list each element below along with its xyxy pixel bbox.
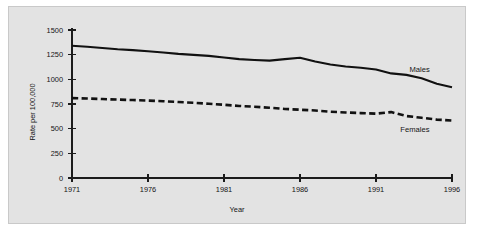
x-axis-title: Year — [230, 205, 245, 214]
y-tick-label: 500 — [51, 124, 63, 133]
x-tick-label: 1981 — [216, 185, 232, 194]
x-tick-label: 1986 — [292, 185, 308, 194]
y-axis-title: Rate per 100,000 — [28, 83, 37, 140]
x-tick-label: 1976 — [140, 185, 156, 194]
y-tick-label: 0 — [59, 174, 63, 183]
x-tick-label: 1971 — [64, 185, 80, 194]
series-label-females: Females — [400, 125, 429, 134]
y-tick-label: 750 — [51, 100, 63, 109]
y-tick-label: 1500 — [47, 26, 63, 35]
y-tick-label: 250 — [51, 149, 63, 158]
chart-figure: 0250500750100012501500 19711976198119861… — [0, 0, 484, 244]
series-label-males: Males — [409, 65, 429, 74]
x-tick-label: 1991 — [368, 185, 384, 194]
x-tick-label: 1996 — [444, 185, 460, 194]
y-tick-label: 1250 — [47, 50, 63, 59]
y-tick-label: 1000 — [47, 75, 63, 84]
